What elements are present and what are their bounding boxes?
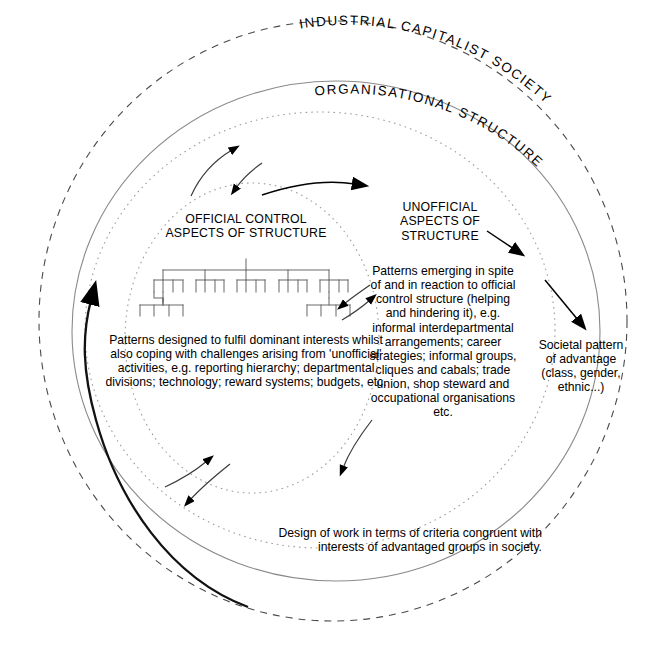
- official-control-heading: OFFICIAL CONTROL ASPECTS OF STRUCTURE: [128, 212, 364, 241]
- official-control-description: Patterns designed to fulfil dominant int…: [104, 333, 388, 390]
- arrow-mutual-influence-right: [342, 300, 370, 320]
- design-of-work-text: Design of work in terms of criteria cong…: [252, 526, 542, 554]
- arrow-unofficial-feedback-down: [343, 420, 372, 468]
- org-chart-tree: [140, 259, 350, 316]
- middle-circle-organisational-structure: [72, 81, 600, 581]
- arrow-unofficial-to-societal-lower: [545, 280, 578, 320]
- unofficial-aspects-heading: UNOFFICIAL ASPECTS OF STRUCTURE: [372, 200, 508, 243]
- arrow-bottom-feedback-up: [165, 461, 207, 487]
- arrow-official-to-unofficial-upper-a: [191, 150, 232, 196]
- diagram-canvas: INDUSTRIAL CAPITALIST SOCIETY ORGANISATI…: [0, 0, 650, 654]
- arrow-official-to-unofficial-upper-b: [236, 163, 262, 188]
- diagram-graphics: [0, 0, 650, 654]
- societal-pattern-of-advantage-text: Societal pattern of advantage (class, ge…: [535, 338, 627, 395]
- unofficial-aspects-description: Patterns emerging in spite of and in rea…: [368, 264, 518, 420]
- arrow-official-to-unofficial-main: [262, 182, 355, 195]
